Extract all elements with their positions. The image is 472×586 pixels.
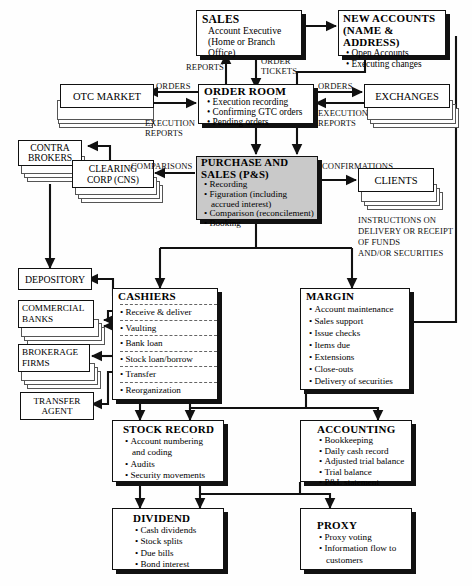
node-commercial-banks[interactable]: COMMERCIAL BANKS: [18, 300, 94, 328]
cashiers-rows: • Receive & deliver • Vaulting • Bank lo…: [113, 304, 217, 398]
edge-label-execution-reports-right-1: EXECUTION: [318, 108, 368, 118]
node-accounting-bullet-5: • P&L statement: [319, 477, 411, 488]
node-clearing-corp-title2: CORP (CNS): [87, 174, 139, 185]
node-cashiers-bullet-5: • Transfer: [120, 366, 217, 382]
node-dividend[interactable]: DIVIDEND • Cash dividends • Stock splits…: [112, 508, 224, 570]
node-stock-record-bullet-1: • Account numbering: [125, 436, 223, 447]
node-sales-line-1: Account Executive: [208, 25, 301, 36]
edge-label-execution-reports-left-2: REPORTS: [145, 128, 183, 138]
node-stock-record-bullet-1-cont: and coding: [132, 447, 223, 458]
edge-margin-to-accounting: [306, 408, 378, 420]
node-dividend-bullet-2: • Stock splits: [135, 536, 223, 547]
node-proxy[interactable]: PROXY • Proxy voting • Information flow …: [300, 508, 412, 570]
node-cashiers-title: CASHIERS: [118, 290, 217, 302]
node-commercial-banks-title2: BANKS: [22, 314, 93, 325]
node-accounting-bullet-3: • Adjusted trial balance: [319, 456, 411, 467]
node-new-accounts-bullet-2: • Executing changes: [346, 59, 445, 70]
node-contra-brokers-title2: BROKERS: [28, 153, 72, 164]
node-accounting-bullet-2: • Daily cash record: [319, 446, 411, 457]
node-order-room-bullet-2: • Confirming GTC orders: [207, 107, 313, 117]
node-new-accounts[interactable]: NEW ACCOUNTS (NAME & ADDRESS) • Open Acc…: [338, 10, 446, 56]
node-ps-bullet-4: • Booking: [204, 219, 317, 229]
node-depository[interactable]: DEPOSITORY: [18, 268, 92, 290]
edge-label-instructions-2: DELIVERY OR RECEIPT: [358, 226, 453, 236]
edge-stock-record-junction: [200, 482, 330, 494]
node-cashiers-bullet-4: • Stock loan/borrow: [120, 351, 217, 367]
node-margin-bullet-1: • Account maintenance: [309, 303, 409, 315]
node-cashiers-bullet-6: • Reorganization: [120, 382, 217, 398]
node-clients[interactable]: CLIENTS: [358, 168, 434, 192]
node-transfer-agent-title2: AGENT: [41, 406, 72, 417]
node-sales-title: SALES: [202, 13, 301, 25]
node-purchase-and-sales[interactable]: PURCHASE AND SALES (P&S) • Recording • F…: [196, 156, 318, 220]
edge-clearing-to-contra: [88, 146, 110, 160]
node-dividend-bullet-1: • Cash dividends: [135, 525, 223, 536]
node-clients-title: CLIENTS: [374, 175, 417, 186]
node-stock-record-title: STOCK RECORD: [123, 423, 223, 436]
node-stock-record[interactable]: STOCK RECORD • Account numbering and cod…: [112, 420, 224, 482]
node-accounting[interactable]: ACCOUNTING • Bookkeeping • Daily cash re…: [300, 420, 412, 482]
node-exchanges[interactable]: EXCHANGES: [364, 84, 450, 108]
node-otc-market[interactable]: OTC MARKET: [60, 84, 154, 108]
node-clearing-corp-title: CLEARING: [89, 163, 138, 174]
node-commercial-banks-title: COMMERCIAL: [22, 303, 93, 314]
node-margin-bullet-3: • Issue checks: [309, 327, 409, 339]
edge-label-orders-right: ORDERS: [318, 81, 353, 91]
flowchart-canvas: SALES Account Executive (Home or Branch …: [0, 0, 472, 586]
node-cashiers[interactable]: CASHIERS • Receive & deliver • Vaulting …: [112, 288, 218, 400]
edge-label-order-tickets-1: ORDER: [261, 56, 291, 66]
node-proxy-bullet-1: • Proxy voting: [319, 532, 411, 543]
edge-label-comparisons: COMPARISONS: [131, 161, 192, 171]
node-proxy-bullet-2: • Information flow to: [319, 543, 411, 554]
node-transfer-agent[interactable]: TRANSFER AGENT: [20, 392, 94, 420]
node-margin-bullet-6: • Close-outs: [309, 363, 409, 375]
node-proxy-bullet-2-cont: customers: [326, 555, 411, 566]
node-depository-title: DEPOSITORY: [25, 274, 85, 285]
node-order-room-bullet-1: • Execution recording: [207, 97, 313, 107]
node-cashiers-bullet-1: • Receive & deliver: [120, 304, 217, 320]
node-transfer-agent-title: TRANSFER: [34, 396, 81, 407]
node-brokerage-firms[interactable]: BROKERAGE FIRMS: [18, 344, 90, 372]
node-dividend-bullet-3: • Due bills: [135, 548, 223, 559]
edge-label-instructions-4: AND/OR SECURITIES: [358, 248, 444, 258]
node-stock-record-bullet-3: • Security movements: [125, 470, 223, 481]
edge-label-order-tickets-2: TICKETS: [261, 66, 297, 76]
node-new-accounts-bullet-1: • Open Accounts: [346, 48, 445, 59]
node-margin-bullet-5: • Extensions: [309, 351, 409, 363]
node-brokerage-firms-title: BROKERAGE: [22, 347, 89, 358]
node-accounting-title: ACCOUNTING: [317, 423, 411, 435]
edge-label-execution-reports-left-1: EXECUTION: [145, 118, 195, 128]
node-brokerage-firms-title2: FIRMS: [22, 358, 89, 369]
edge-label-execution-reports-right-2: REPORTS: [318, 118, 356, 128]
node-sales-line-2: (Home or Branch Office): [208, 36, 301, 58]
node-ps-title: PURCHASE AND: [201, 157, 317, 169]
edge-label-confirmations: CONFIRMATIONS: [322, 161, 393, 171]
node-otc-market-title: OTC MARKET: [73, 91, 141, 102]
edge-accounting-to-proxy: [300, 494, 330, 508]
node-stock-record-bullet-2: • Audits: [125, 459, 223, 470]
node-exchanges-title: EXCHANGES: [375, 91, 439, 102]
node-cashiers-bullet-2: • Vaulting: [120, 320, 217, 336]
node-margin-bullet-7: • Delivery of securities: [309, 375, 409, 387]
node-dividend-bullet-4: • Bond interest: [135, 559, 223, 570]
node-margin-title: MARGIN: [306, 290, 409, 303]
node-margin-bullet-2: • Sales support: [309, 315, 409, 327]
node-new-accounts-title2: (NAME & ADDRESS): [343, 24, 445, 48]
node-accounting-bullet-1: • Bookkeeping: [319, 435, 411, 446]
node-order-room-bullet-3: • Pending orders: [207, 117, 313, 127]
node-margin-bullet-4: • Items due: [309, 339, 409, 351]
edge-label-instructions-3: OF FUNDS: [358, 237, 400, 247]
node-margin[interactable]: MARGIN • Account maintenance • Sales sup…: [300, 288, 410, 390]
node-cashiers-bullet-3: • Bank loan: [120, 335, 217, 351]
node-order-room[interactable]: ORDER ROOM • Execution recording • Confi…: [198, 84, 314, 124]
edge-label-orders-left: ORDERS: [156, 81, 191, 91]
edge-label-reports: REPORTS: [186, 62, 224, 72]
edge-cashiers-junction: [190, 400, 306, 408]
node-dividend-title: DIVIDEND: [133, 512, 223, 525]
node-order-room-title: ORDER ROOM: [204, 85, 313, 97]
node-accounting-bullet-4: • Trial balance: [319, 467, 411, 478]
node-new-accounts-title: NEW ACCOUNTS: [343, 12, 445, 24]
node-sales[interactable]: SALES Account Executive (Home or Branch …: [196, 10, 302, 56]
node-proxy-title: PROXY: [317, 519, 411, 532]
edge-label-instructions-1: INSTRUCTIONS ON: [358, 215, 436, 225]
